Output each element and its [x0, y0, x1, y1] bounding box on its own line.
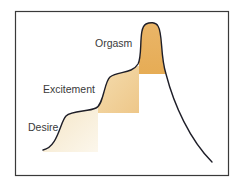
excitement-label: Excitement [43, 83, 95, 95]
orgasm-label: Orgasm [95, 37, 133, 49]
desire-label: Desire [28, 121, 59, 133]
response-cycle-diagram: Desire Excitement Orgasm [0, 0, 241, 183]
